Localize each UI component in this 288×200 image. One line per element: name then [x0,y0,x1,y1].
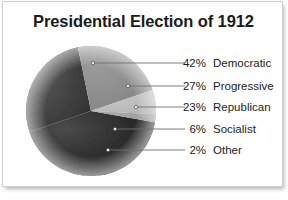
legend-item-progressive: 27% Progressive [173,79,285,93]
chart-screenshot: Presidential Election of 1912 [0,0,288,200]
legend-label-socialist: Socialist [213,123,256,135]
pie-chart-svg [19,38,171,186]
legend-percent-other: 2% [173,144,206,156]
legend-item-republican: 23% Republican [173,100,285,114]
page-title: Presidential Election of 1912 [3,12,284,31]
legend-percent-republican: 23% [173,101,206,113]
legend-label-republican: Republican [213,101,271,113]
legend-percent-progressive: 27% [173,80,206,92]
legend-item-democratic: 42% Democratic [173,56,285,70]
chart-card: Presidential Election of 1912 [2,1,283,187]
legend-percent-socialist: 6% [173,123,206,135]
legend-percent-democratic: 42% [173,57,206,69]
legend-item-other: 2% Other [173,143,285,157]
legend-label-progressive: Progressive [213,80,274,92]
legend-label-other: Other [213,144,242,156]
pie-highlight [26,46,156,176]
pie-chart [19,38,171,186]
chart-legend: 42% Democratic 27% Progressive 23% Repub… [173,48,285,168]
legend-item-socialist: 6% Socialist [173,122,285,136]
legend-label-democratic: Democratic [213,57,271,69]
